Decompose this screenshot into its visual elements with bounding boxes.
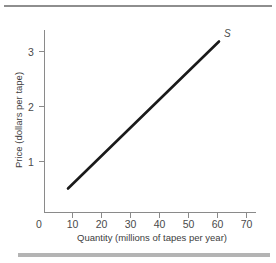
supply-curve-figure: S 3 2 1 0 10 20 30 40 50 60 70 Quantity …: [0, 0, 276, 263]
y-tick-label-2: 2: [28, 101, 34, 113]
x-tick-label-10: 10: [67, 218, 79, 230]
x-tick-label-50: 50: [183, 218, 195, 230]
supply-curve-line: [68, 42, 219, 189]
bottom-divider-rule: [18, 253, 270, 257]
x-tick-label-40: 40: [154, 218, 166, 230]
y-axis-title: Price (dollars per tape): [13, 72, 24, 168]
x-tick-label-60: 60: [212, 218, 224, 230]
x-tick-label-0: 0: [36, 218, 42, 230]
supply-curve-label: S: [224, 28, 231, 39]
x-tick-label-20: 20: [96, 218, 108, 230]
x-tick-label-30: 30: [125, 218, 137, 230]
y-tick-label-1: 1: [28, 156, 34, 168]
x-tick-label-70: 70: [241, 218, 253, 230]
chart-canvas: S 3 2 1 0 10 20 30 40 50 60 70 Quantity …: [0, 0, 276, 263]
x-axis-title: Quantity (millions of tapes per year): [77, 232, 227, 243]
figure-page: S 3 2 1 0 10 20 30 40 50 60 70 Quantity …: [0, 0, 276, 263]
y-tick-label-3: 3: [28, 46, 34, 58]
